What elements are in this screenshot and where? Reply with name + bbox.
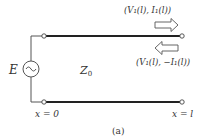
- position-left-label: x = 0: [35, 109, 59, 119]
- forward-wave-label: (V₁(l), I₁(l)): [124, 5, 171, 15]
- terminal-top-left: [42, 34, 46, 38]
- position-right-label: x = l: [172, 109, 193, 119]
- forward-arrow-icon: [155, 19, 178, 32]
- reflected-wave-label: (V₁(l), −I₁(l)): [136, 57, 190, 67]
- impedance-label: Z0: [79, 64, 92, 78]
- reflected-arrow-icon: [155, 42, 178, 55]
- ac-source-icon: [23, 61, 39, 77]
- terminal-bottom-left: [42, 100, 46, 104]
- figure-caption: (a): [112, 126, 124, 136]
- transmission-line-diagram: E Z0 x = 0 x = l (a) (V₁(l), I₁(l)) (V₁(…: [0, 0, 202, 139]
- terminal-bottom-right: [180, 100, 184, 104]
- source-label: E: [8, 63, 18, 77]
- terminal-top-right: [180, 34, 184, 38]
